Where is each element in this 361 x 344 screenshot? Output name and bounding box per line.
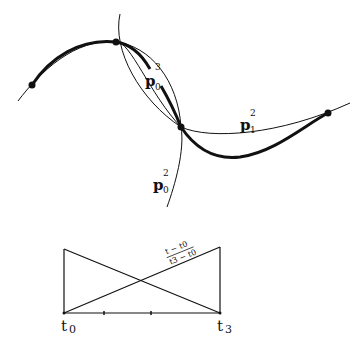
svg-text:1: 1 xyxy=(250,125,256,135)
label-p02: p 2 0 xyxy=(153,168,169,195)
svg-text:t: t xyxy=(61,317,67,335)
svg-text:3: 3 xyxy=(155,62,161,72)
svg-text:2: 2 xyxy=(163,168,169,178)
svg-text:3: 3 xyxy=(225,323,232,336)
svg-text:0: 0 xyxy=(163,185,169,195)
svg-text:0: 0 xyxy=(69,323,76,336)
svg-text:p: p xyxy=(145,72,156,90)
label-p12: p 2 1 xyxy=(240,108,256,135)
svg-text:2: 2 xyxy=(250,108,256,118)
svg-text:p: p xyxy=(240,116,251,134)
label-t0: t 0 xyxy=(61,317,76,336)
label-t3: t 3 xyxy=(217,317,232,336)
control-point-1 xyxy=(113,39,120,46)
svg-text:0: 0 xyxy=(155,82,161,92)
svg-text:t: t xyxy=(217,317,223,335)
fraction-label: t − t0 t3 − t0 xyxy=(163,237,198,267)
thick-curve-segment-1 xyxy=(32,41,150,85)
blend-chart: t − t0 t3 − t0 t 0 t 3 xyxy=(61,237,232,336)
control-point-3 xyxy=(325,110,332,117)
control-point-0 xyxy=(29,82,36,89)
svg-text:p: p xyxy=(153,176,164,194)
blossoming-diagram: p 3 0 p 2 1 p 2 0 t − t0 t3 − t0 t 0 xyxy=(0,0,361,344)
control-point-2 xyxy=(178,124,185,131)
